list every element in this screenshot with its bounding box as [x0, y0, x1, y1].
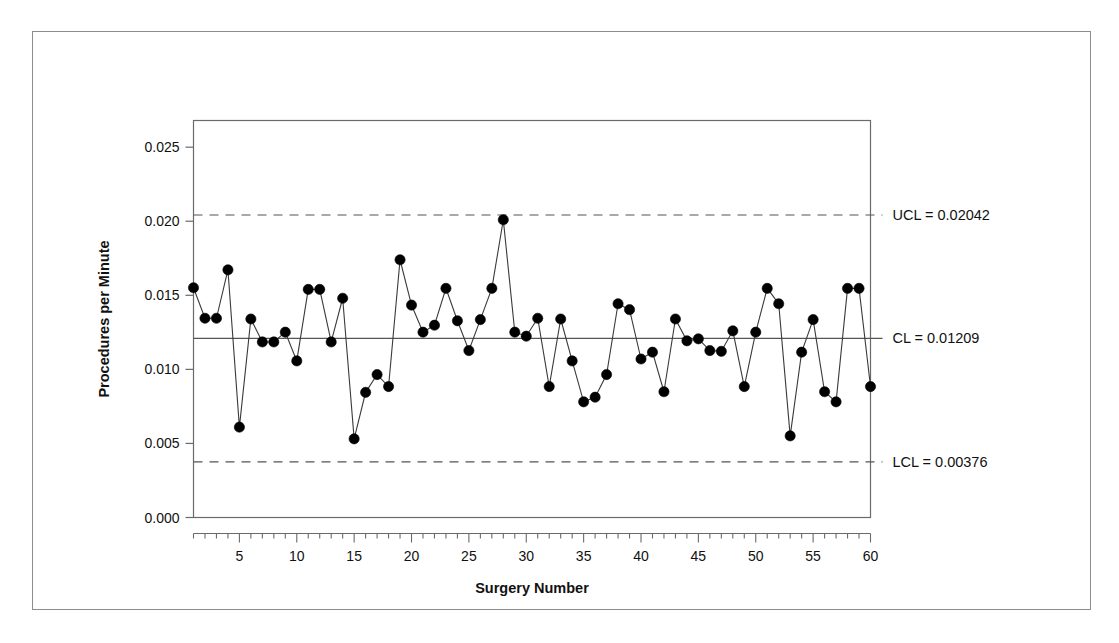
- x-axis-title: Surgery Number: [475, 580, 589, 596]
- data-point-marker: [349, 434, 359, 444]
- data-point-marker: [590, 392, 600, 402]
- data-point-marker: [269, 337, 279, 347]
- data-point-marker: [659, 387, 669, 397]
- data-point-marker: [303, 284, 313, 294]
- data-point-marker: [246, 314, 256, 324]
- x-axis-tick-label: 20: [404, 548, 420, 564]
- data-point-marker: [510, 327, 520, 337]
- x-axis-tick-label: 35: [576, 548, 592, 564]
- data-point-marker: [865, 381, 875, 391]
- data-point-marker: [395, 255, 405, 265]
- data-point-marker: [234, 422, 244, 432]
- data-point-marker: [326, 337, 336, 347]
- data-point-marker: [441, 283, 451, 293]
- data-point-marker: [831, 397, 841, 407]
- y-axis-tick-label: 0.025: [144, 139, 179, 155]
- data-point-marker: [544, 381, 554, 391]
- y-axis-tick-label: 0.005: [144, 435, 179, 451]
- data-point-marker: [223, 265, 233, 275]
- data-point-marker: [361, 387, 371, 397]
- data-point-marker: [682, 336, 692, 346]
- data-point-marker: [762, 283, 772, 293]
- data-point-marker: [670, 314, 680, 324]
- x-axis-tick-label: 10: [289, 548, 305, 564]
- x-axis-tick-label: 55: [805, 548, 821, 564]
- data-point-marker: [854, 283, 864, 293]
- control-chart-figure: 0.0000.0050.0100.0150.0200.025Procedures…: [0, 0, 1119, 643]
- plot-frame: [194, 121, 871, 518]
- data-point-marker: [475, 314, 485, 324]
- data-point-marker: [774, 299, 784, 309]
- data-point-marker: [406, 300, 416, 310]
- data-point-marker: [533, 313, 543, 323]
- x-axis-tick-label: 40: [633, 548, 649, 564]
- data-point-marker: [693, 334, 703, 344]
- data-point-group: [188, 215, 875, 444]
- data-point-marker: [280, 327, 290, 337]
- data-point-marker: [705, 345, 715, 355]
- y-axis-tick-label: 0.020: [144, 213, 179, 229]
- data-point-marker: [567, 356, 577, 366]
- data-point-marker: [751, 327, 761, 337]
- data-point-marker: [257, 337, 267, 347]
- x-axis-tick-label: 45: [691, 548, 707, 564]
- data-point-marker: [188, 283, 198, 293]
- x-axis-tick-label: 60: [863, 548, 879, 564]
- x-axis-tick-label: 50: [748, 548, 764, 564]
- y-axis-tick-label: 0.000: [144, 510, 179, 526]
- data-point-marker: [797, 347, 807, 357]
- data-point-marker: [464, 345, 474, 355]
- data-point-marker: [292, 356, 302, 366]
- data-point-marker: [820, 387, 830, 397]
- data-point-marker: [601, 369, 611, 379]
- data-point-marker: [624, 305, 634, 315]
- data-point-marker: [383, 381, 393, 391]
- x-axis-tick-label: 25: [461, 548, 477, 564]
- data-point-marker: [498, 215, 508, 225]
- data-point-marker: [556, 314, 566, 324]
- x-axis-tick-label: 5: [235, 548, 243, 564]
- data-point-marker: [429, 320, 439, 330]
- data-point-marker: [647, 347, 657, 357]
- y-axis-title: Procedures per Minute: [96, 240, 112, 397]
- data-point-marker: [200, 313, 210, 323]
- data-point-marker: [785, 431, 795, 441]
- data-point-marker: [452, 316, 462, 326]
- x-axis-tick-label: 30: [518, 548, 534, 564]
- data-point-marker: [808, 314, 818, 324]
- data-point-marker: [739, 381, 749, 391]
- data-point-marker: [315, 284, 325, 294]
- y-axis-tick-label: 0.015: [144, 287, 179, 303]
- data-point-marker: [338, 293, 348, 303]
- data-point-marker: [636, 354, 646, 364]
- y-axis-tick-label: 0.010: [144, 361, 179, 377]
- control-chart-svg: 0.0000.0050.0100.0150.0200.025Procedures…: [0, 0, 1119, 643]
- data-point-marker: [418, 327, 428, 337]
- cl-label: CL = 0.01209: [893, 330, 980, 346]
- data-point-marker: [487, 283, 497, 293]
- data-point-marker: [372, 369, 382, 379]
- ucl-label: UCL = 0.02042: [893, 207, 990, 223]
- data-point-marker: [211, 313, 221, 323]
- data-point-marker: [842, 283, 852, 293]
- x-axis-tick-label: 15: [346, 548, 362, 564]
- data-point-marker: [728, 326, 738, 336]
- data-series-line: [194, 220, 871, 439]
- data-point-marker: [579, 397, 589, 407]
- data-point-marker: [521, 331, 531, 341]
- lcl-label: LCL = 0.00376: [893, 454, 988, 470]
- data-point-marker: [613, 299, 623, 309]
- data-point-marker: [716, 346, 726, 356]
